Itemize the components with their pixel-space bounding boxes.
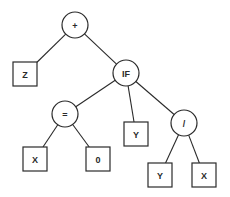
edge-plus-if — [84, 34, 116, 64]
node-y-middle-label: Y — [133, 130, 139, 140]
node-x-bottom: X — [192, 163, 216, 187]
node-y-middle: Y — [124, 122, 148, 146]
node-z-label: Z — [22, 70, 28, 80]
edge-div-y — [166, 135, 179, 163]
node-x-bottom-label: X — [201, 171, 207, 181]
node-if: IF — [113, 60, 139, 86]
node-zero-label: 0 — [95, 155, 100, 165]
node-plus: + — [62, 12, 88, 38]
tree-edges — [37, 34, 199, 163]
node-if-label: IF — [122, 69, 131, 79]
node-x-left: X — [23, 147, 47, 171]
edge-if-div — [136, 81, 174, 114]
node-divide: / — [171, 110, 197, 136]
edge-plus-z — [37, 34, 66, 62]
edge-eq-zero — [73, 124, 90, 147]
edge-if-y — [128, 86, 134, 122]
node-z: Z — [13, 62, 37, 86]
tree-nodes: + Z IF = Y / X 0 — [13, 12, 216, 187]
edge-if-eq — [76, 80, 115, 106]
node-plus-label: + — [72, 21, 77, 31]
expression-tree: + Z IF = Y / X 0 — [0, 0, 230, 197]
node-y-bottom: Y — [148, 163, 172, 187]
edge-eq-x — [43, 125, 58, 147]
node-zero: 0 — [86, 147, 110, 171]
node-y-bottom-label: Y — [157, 171, 163, 181]
node-equals-label: = — [62, 110, 67, 120]
node-x-left-label: X — [32, 155, 38, 165]
edge-div-x — [189, 135, 200, 163]
node-equals: = — [52, 101, 78, 127]
